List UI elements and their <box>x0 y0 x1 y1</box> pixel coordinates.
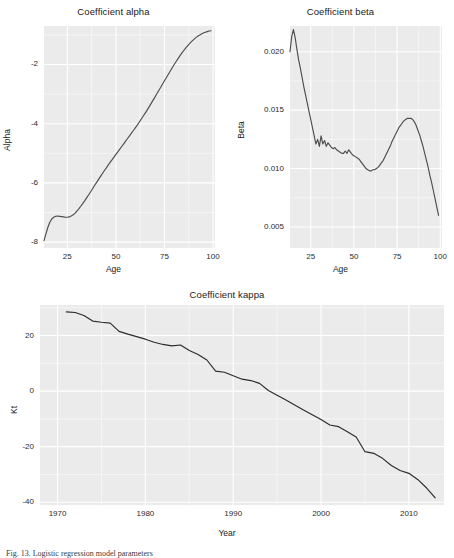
kappa-y-axis-label: Kt <box>9 390 19 430</box>
beta-y-axis-label: Beta <box>236 110 246 150</box>
y-tick-label: 0 <box>0 386 34 395</box>
beta-x-axis-label: Age <box>227 264 454 274</box>
kappa-plot-area <box>0 285 454 547</box>
y-tick-label: 20 <box>0 331 34 340</box>
y-tick-label: -40 <box>0 497 34 506</box>
x-tick-label: 2010 <box>379 509 439 518</box>
kappa-x-axis-label: Year <box>0 528 454 538</box>
y-tick-label: -6 <box>0 178 38 187</box>
y-tick-label: 0.010 <box>238 164 284 173</box>
x-tick-label: 1980 <box>115 509 175 518</box>
y-tick-label: -20 <box>0 442 34 451</box>
x-tick-label: 2000 <box>291 509 351 518</box>
x-tick-label: 1990 <box>203 509 263 518</box>
beta-plot-area <box>227 0 454 281</box>
x-tick-label: 100 <box>410 252 454 261</box>
y-tick-label: 0.005 <box>238 222 284 231</box>
y-tick-label: 0.020 <box>238 47 284 56</box>
chart-coefficient-beta: Coefficient beta Age Beta 2550751000.005… <box>227 0 454 281</box>
figure-caption: Fig. 13. Logistic regression model param… <box>6 549 153 558</box>
x-tick-label: 1970 <box>28 509 88 518</box>
y-tick-label: -4 <box>0 119 38 128</box>
alpha-x-axis-label: Age <box>0 264 227 274</box>
chart-coefficient-alpha: Coefficient alpha Age Alpha 255075100-8-… <box>0 0 227 281</box>
y-tick-label: -8 <box>0 237 38 246</box>
chart-coefficient-kappa: Coefficient kappa Year Kt 19701980199020… <box>0 285 454 547</box>
y-tick-label: -2 <box>0 59 38 68</box>
y-tick-label: 0.015 <box>238 105 284 114</box>
